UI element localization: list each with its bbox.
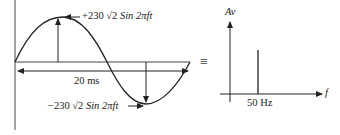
sine-spectrum-diagram: +230 √2 Sin 2πft 20 ms −230 √2 Sin 2πft … [0, 0, 340, 135]
sine-wave [15, 17, 190, 104]
peak-label: +230 √2 Sin 2πft [82, 10, 152, 22]
trough-amplitude-text: −230 [48, 100, 72, 111]
sqrt2-text: √2 [72, 100, 83, 111]
spike-frequency-label: 50 Hz [247, 97, 272, 109]
peak-function-text: Sin 2πft [117, 10, 152, 21]
equivalence-symbol: ≡ [200, 55, 208, 69]
frequency-domain-plot [220, 22, 322, 102]
sqrt2-text: √2 [106, 10, 117, 21]
trough-label: −230 √2 Sin 2πft [48, 100, 118, 112]
peak-amplitude-text: +230 [82, 10, 106, 21]
period-label: 20 ms [74, 75, 99, 87]
amplitude-axis-label: Av [225, 6, 236, 18]
trough-function-text: Sin 2πft [83, 100, 118, 111]
frequency-axis-label: f [325, 87, 328, 99]
diagram-graphics [0, 0, 340, 135]
